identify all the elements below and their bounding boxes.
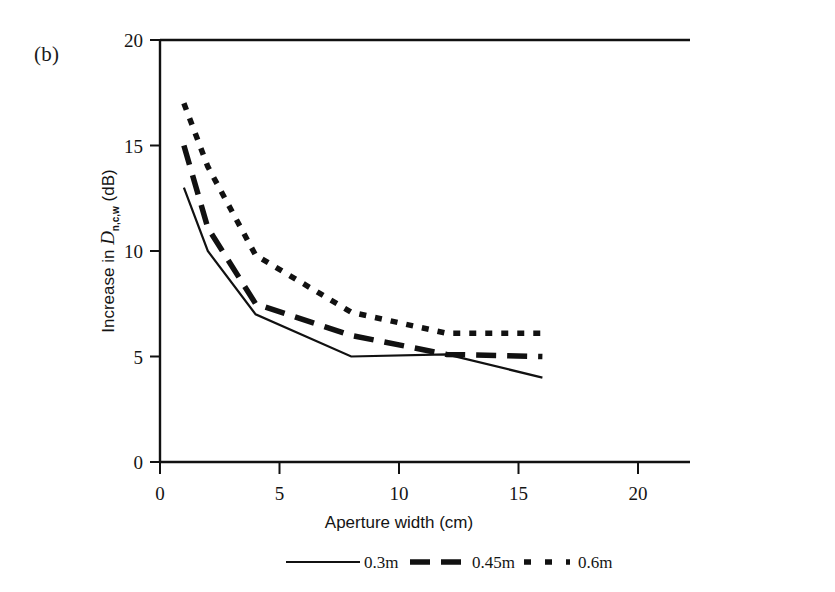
x-tick-label-20: 20 [629,483,648,504]
series-line-0.6m [184,103,543,333]
y-axis-title-symbol: D [97,231,118,246]
y-tick-label-0: 0 [134,452,144,473]
y-axis-title: Increase in Dn,c,w (dB) [97,169,121,332]
x-axis-ticks [160,462,638,474]
x-tick-label-15: 15 [509,483,528,504]
legend: 0.3m 0.45m 0.6m [286,553,612,572]
y-axis-title-subscript: n,c,w [110,206,121,231]
chart-canvas: 0 5 10 15 20 0 5 10 15 20 Aperture width… [0,0,835,592]
x-tick-label-10: 10 [390,483,409,504]
y-tick-label-20: 20 [124,30,143,51]
y-tick-label-5: 5 [134,347,144,368]
x-tick-label-0: 0 [155,483,165,504]
svg-text:Increase in Dn,c,w (dB): Increase in Dn,c,w (dB) [97,169,121,332]
x-axis-title: Aperture width (cm) [325,513,473,532]
y-axis-title-prefix: Increase in [99,245,118,333]
plot-frame [160,40,690,462]
x-tick-labels: 0 5 10 15 20 [155,483,647,504]
legend-label-0.6m: 0.6m [578,553,612,572]
legend-label-0.45m: 0.45m [472,553,515,572]
y-axis-title-units: (dB) [99,169,118,206]
y-tick-label-10: 10 [124,241,143,262]
series-line-0.3m [184,188,543,378]
x-tick-label-5: 5 [275,483,285,504]
y-axis-ticks [150,40,160,462]
data-series-group [184,103,543,377]
y-tick-label-15: 15 [124,136,143,157]
y-tick-labels: 0 5 10 15 20 [124,30,143,473]
figure-container: (b) 0 5 10 15 20 [0,0,835,592]
legend-label-0.3m: 0.3m [364,553,398,572]
series-line-0.45m [184,146,543,357]
